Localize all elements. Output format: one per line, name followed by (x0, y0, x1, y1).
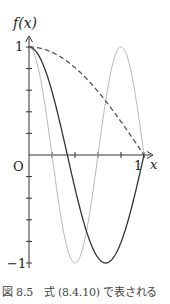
x-axis-label: x (150, 157, 158, 172)
y-axis-label: f(x) (12, 15, 37, 31)
figure-caption: 図 8.5 式 (8.4.10) で表される (2, 283, 170, 299)
y-tick-label-minus-1: −1 (7, 256, 26, 271)
origin-label: O (13, 159, 24, 174)
y-tick-label-1: 1 (15, 39, 23, 54)
chart-plot: f(x) x O 1 1 −1 (0, 0, 170, 280)
curve-series-0 (29, 47, 144, 155)
x-tick-label-1: 1 (134, 158, 142, 173)
